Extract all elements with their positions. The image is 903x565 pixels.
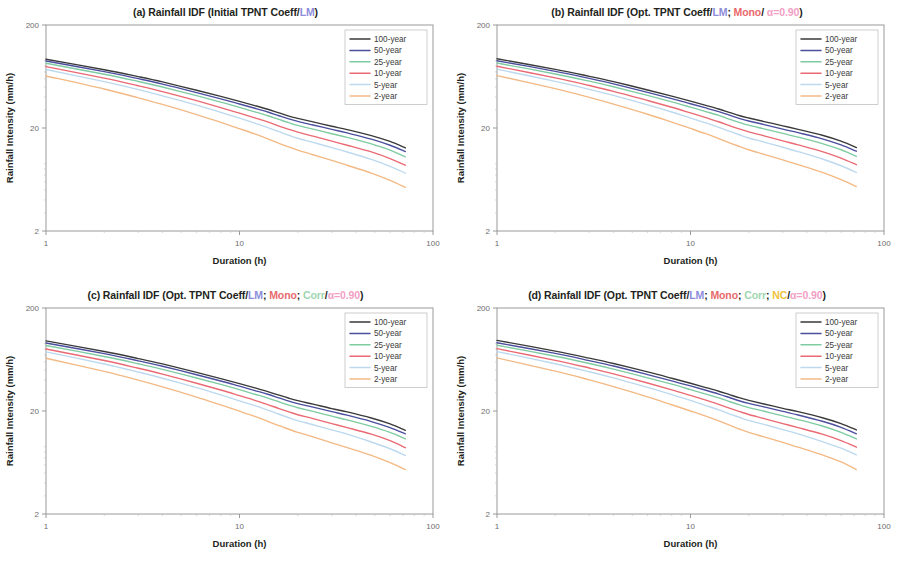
y-tick-label: 20 <box>481 407 490 416</box>
legend-label-50-year: 50-year <box>825 329 853 338</box>
legend-label-100-year: 100-year <box>825 35 858 44</box>
y-tick-label: 200 <box>26 21 40 30</box>
y-tick-label: 2 <box>35 510 40 519</box>
panel-a-svg: 220200110100Duration (h)Rainfall Intensi… <box>0 0 451 283</box>
legend-label-50-year: 50-year <box>825 46 853 55</box>
legend-label-2-year: 2-year <box>374 92 397 101</box>
legend-label-5-year: 5-year <box>825 81 848 90</box>
legend-label-2-year: 2-year <box>374 375 397 384</box>
panel-c-svg: 220200110100Duration (h)Rainfall Intensi… <box>0 283 451 565</box>
legend-label-2-year: 2-year <box>825 92 848 101</box>
y-tick-label: 20 <box>30 124 39 133</box>
panel-b-svg: 220200110100Duration (h)Rainfall Intensi… <box>451 0 902 283</box>
y-axis-title: Rainfall Intensity (mm/h) <box>4 73 15 183</box>
y-axis-title: Rainfall Intensity (mm/h) <box>4 356 15 466</box>
legend-label-100-year: 100-year <box>374 35 407 44</box>
x-tick-label: 10 <box>235 239 244 248</box>
y-tick-label: 200 <box>477 304 491 313</box>
panel-c: (c) Rainfall IDF (Opt. TPNT Coeff/LM; Mo… <box>0 283 451 565</box>
legend-label-5-year: 5-year <box>374 364 397 373</box>
y-tick-label: 2 <box>486 227 491 236</box>
figure-panel-grid: (a) Rainfall IDF (Initial TPNT Coeff/LM)… <box>0 0 903 565</box>
x-tick-label: 100 <box>426 239 440 248</box>
legend-label-50-year: 50-year <box>374 329 402 338</box>
x-tick-label: 100 <box>426 522 440 531</box>
panel-d-svg: 220200110100Duration (h)Rainfall Intensi… <box>451 283 902 565</box>
panel-d-plot: 220200110100Duration (h)Rainfall Intensi… <box>451 283 903 565</box>
y-tick-label: 20 <box>30 407 39 416</box>
x-tick-label: 100 <box>877 239 891 248</box>
legend-label-100-year: 100-year <box>825 318 858 327</box>
x-axis-title: Duration (h) <box>664 538 718 549</box>
x-tick-label: 100 <box>877 522 891 531</box>
x-tick-label: 10 <box>235 522 244 531</box>
legend-label-25-year: 25-year <box>374 341 402 350</box>
legend-label-25-year: 25-year <box>825 58 853 67</box>
legend-label-10-year: 10-year <box>374 69 402 78</box>
legend-label-10-year: 10-year <box>825 69 853 78</box>
y-tick-label: 200 <box>477 21 491 30</box>
legend-label-5-year: 5-year <box>825 364 848 373</box>
x-tick-label: 1 <box>495 522 500 531</box>
legend-label-100-year: 100-year <box>374 318 407 327</box>
legend-label-2-year: 2-year <box>825 375 848 384</box>
legend-label-10-year: 10-year <box>374 352 402 361</box>
legend-label-5-year: 5-year <box>374 81 397 90</box>
x-axis-title: Duration (h) <box>213 255 267 266</box>
y-tick-label: 200 <box>26 304 40 313</box>
x-axis-title: Duration (h) <box>664 255 718 266</box>
legend-label-50-year: 50-year <box>374 46 402 55</box>
panel-a-plot: 220200110100Duration (h)Rainfall Intensi… <box>0 0 451 283</box>
legend-label-25-year: 25-year <box>374 58 402 67</box>
y-tick-label: 2 <box>486 510 491 519</box>
legend-label-10-year: 10-year <box>825 352 853 361</box>
y-axis-title: Rainfall Intensity (mm/h) <box>455 356 466 466</box>
panel-b-plot: 220200110100Duration (h)Rainfall Intensi… <box>451 0 903 283</box>
x-tick-label: 10 <box>686 522 695 531</box>
y-axis-title: Rainfall Intensity (mm/h) <box>455 73 466 183</box>
y-tick-label: 2 <box>35 227 40 236</box>
panel-b: (b) Rainfall IDF (Opt. TPNT Coeff/LM; Mo… <box>451 0 903 283</box>
x-axis-title: Duration (h) <box>213 538 267 549</box>
panel-d: (d) Rainfall IDF (Opt. TPNT Coeff/LM; Mo… <box>451 283 903 565</box>
panel-c-plot: 220200110100Duration (h)Rainfall Intensi… <box>0 283 451 565</box>
x-tick-label: 1 <box>495 239 500 248</box>
x-tick-label: 1 <box>44 239 49 248</box>
x-tick-label: 10 <box>686 239 695 248</box>
y-tick-label: 20 <box>481 124 490 133</box>
x-tick-label: 1 <box>44 522 49 531</box>
legend-label-25-year: 25-year <box>825 341 853 350</box>
panel-a: (a) Rainfall IDF (Initial TPNT Coeff/LM)… <box>0 0 451 283</box>
